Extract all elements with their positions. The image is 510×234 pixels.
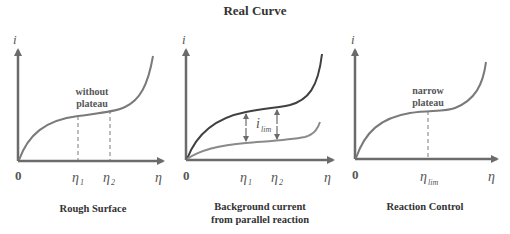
eta1-label: η <box>240 170 247 185</box>
eta2-label: η <box>103 170 110 185</box>
origin-label: 0 <box>352 167 359 182</box>
caption-line-1: Background current <box>185 200 335 213</box>
panel-rough-surface: i 0 η without plateau η 1 η 2 <box>13 32 163 187</box>
eta-lim-label: η <box>420 169 427 184</box>
eta-lim-subscript: lim <box>428 178 438 187</box>
annotation-without: without <box>76 86 109 97</box>
eta2-label: η <box>271 170 278 185</box>
caption-background-current: Background current from parallel reactio… <box>185 200 335 226</box>
x-axis-label: η <box>324 170 331 185</box>
curves-diagram: i 0 η without plateau η 1 η 2 i lim i 0 … <box>0 0 510 234</box>
eta2-subscript: 2 <box>279 178 283 187</box>
x-axis-label: η <box>155 170 162 185</box>
y-axis-label: i <box>351 32 355 47</box>
annotation-narrow: narrow <box>412 85 444 96</box>
annotation-plateau: plateau <box>412 97 444 108</box>
origin-label: 0 <box>183 168 190 183</box>
origin-label: 0 <box>15 168 22 183</box>
eta1-subscript: 1 <box>248 178 252 187</box>
ilim-label: i <box>256 116 260 131</box>
panel-reaction-control: narrow plateau i 0 η η lim <box>351 32 497 187</box>
background-current-curve <box>187 122 320 159</box>
panel-background-current: i lim i 0 η η 1 η 2 <box>182 32 333 187</box>
eta2-subscript: 2 <box>111 178 115 187</box>
caption-reaction-control: Reaction Control <box>355 200 495 213</box>
eta1-subscript: 1 <box>80 178 84 187</box>
caption-rough-surface: Rough Surface <box>18 202 168 215</box>
caption-line-2: from parallel reaction <box>185 213 335 226</box>
ilim-subscript: lim <box>261 125 271 134</box>
current-curve <box>356 62 486 158</box>
y-axis-label: i <box>182 32 186 47</box>
x-axis-label: η <box>488 169 495 184</box>
y-axis-label: i <box>13 32 17 47</box>
annotation-plateau: plateau <box>76 98 108 109</box>
eta1-label: η <box>72 170 79 185</box>
